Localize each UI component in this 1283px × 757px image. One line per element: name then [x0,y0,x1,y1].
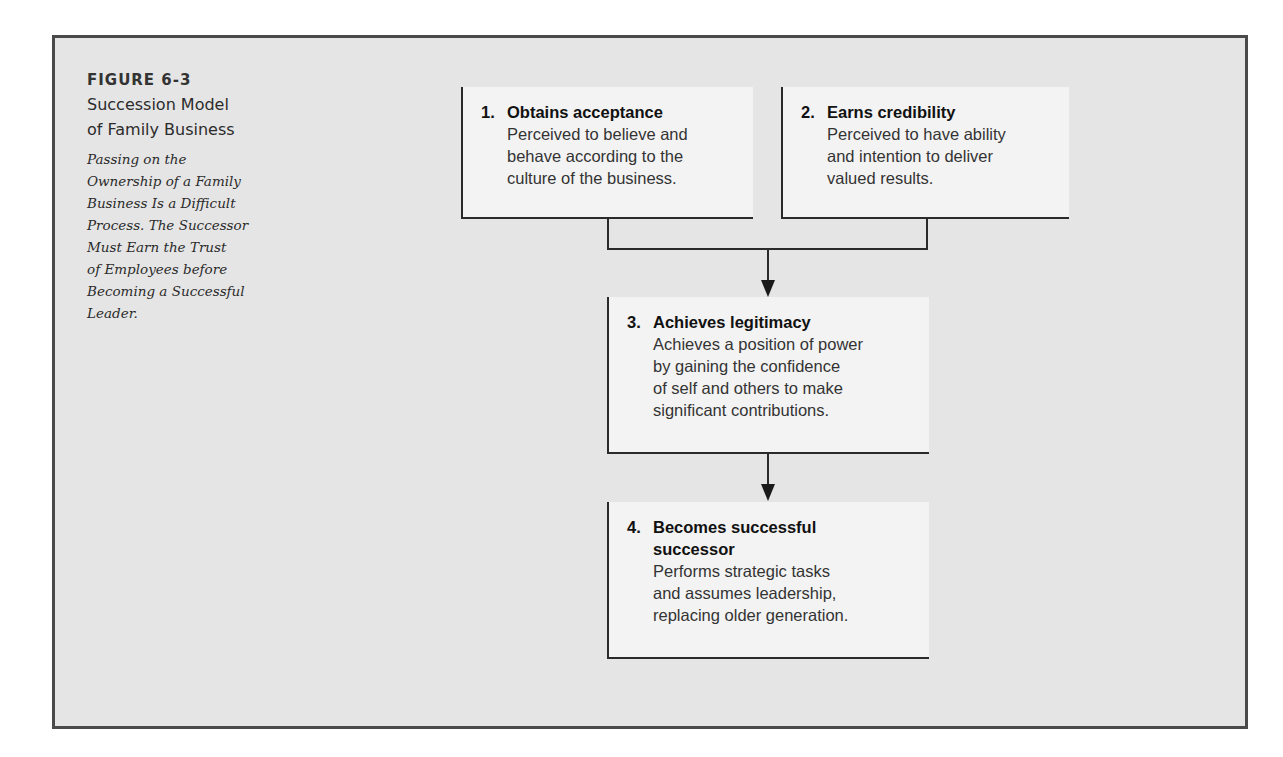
connector-arrow-shaft-2 [767,453,769,487]
step-1-body-line: behave according to the [507,145,743,167]
step-4-heading-cont: successor [653,538,919,560]
step-box-1: 1. Obtains acceptance Perceived to belie… [461,87,753,219]
description-line: of Employees before [87,258,287,280]
description-line: Process. The Successor [87,214,287,236]
description-line: Ownership of a Family [87,170,287,192]
description-line: Business Is a Difficult [87,192,287,214]
figure-title-line-2: of Family Business [87,117,287,142]
step-4-title-line-2: successor [653,538,735,560]
step-box-4: 4. Becomes successful successor Performs… [607,502,929,659]
step-3-body: Achieves a position of power by gaining … [653,333,919,421]
connector-left-drop [607,218,609,250]
step-4-body-line: replacing older generation. [653,604,919,626]
step-2-title: Earns credibility [827,101,955,123]
step-3-body-line: significant contributions. [653,399,919,421]
connector-arrow-shaft-1 [767,248,769,282]
step-4-number: 4. [627,516,653,538]
figure-title-line-1: Succession Model [87,92,287,117]
step-3-body-line: by gaining the confidence [653,355,919,377]
step-1-body: Perceived to believe and behave accordin… [507,123,743,189]
figure-description: Passing on the Ownership of a Family Bus… [87,148,287,324]
arrow-down-icon [761,280,775,297]
description-line: Must Earn the Trust [87,236,287,258]
step-2-body-line: and intention to deliver [827,145,1059,167]
description-line: Becoming a Successful [87,280,287,302]
arrow-down-icon [761,484,775,501]
description-line: Leader. [87,302,287,324]
step-2-body: Perceived to have ability and intention … [827,123,1059,189]
step-4-title-line-1: Becomes successful [653,516,816,538]
figure-frame: FIGURE 6-3 Succession Model of Family Bu… [52,35,1248,729]
description-line: Passing on the [87,148,287,170]
step-2-number: 2. [801,101,827,123]
step-4-body-line: Performs strategic tasks [653,560,919,582]
step-1-number: 1. [481,101,507,123]
step-1-body-line: culture of the business. [507,167,743,189]
step-4-heading: 4. Becomes successful [627,516,919,538]
step-4-body-line: and assumes leadership, [653,582,919,604]
step-3-body-line: Achieves a position of power [653,333,919,355]
step-3-heading: 3. Achieves legitimacy [627,311,919,333]
step-box-3: 3. Achieves legitimacy Achieves a positi… [607,297,929,454]
step-box-2: 2. Earns credibility Perceived to have a… [781,87,1069,219]
step-2-heading: 2. Earns credibility [801,101,1059,123]
step-2-body-line: Perceived to have ability [827,123,1059,145]
step-2-body-line: valued results. [827,167,1059,189]
step-3-title: Achieves legitimacy [653,311,811,333]
step-1-body-line: Perceived to believe and [507,123,743,145]
step-1-title: Obtains acceptance [507,101,663,123]
step-4-body: Performs strategic tasks and assumes lea… [653,560,919,626]
figure-label: FIGURE 6-3 [87,68,287,92]
step-3-body-line: of self and others to make [653,377,919,399]
step-1-heading: 1. Obtains acceptance [481,101,743,123]
connector-right-drop [926,218,928,250]
figure-caption: FIGURE 6-3 Succession Model of Family Bu… [87,68,287,324]
step-3-number: 3. [627,311,653,333]
